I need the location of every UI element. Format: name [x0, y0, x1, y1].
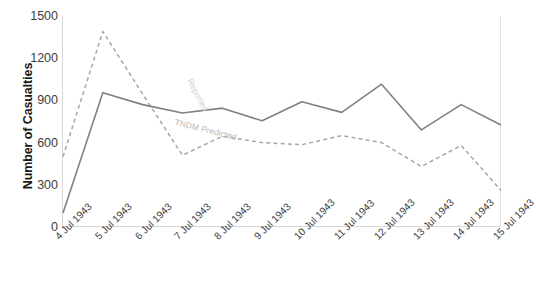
x-tick-label-6: 10 Jul 1943 [292, 197, 337, 242]
x-tick-label-0: 4 Jul 1943 [53, 201, 94, 242]
x-tick-label-1: 5 Jul 1943 [93, 201, 134, 242]
x-tick-label-8: 12 Jul 1943 [372, 197, 417, 242]
x-tick-label-7: 11 Jul 1943 [332, 197, 376, 241]
x-tick-label-2: 6 Jul 1943 [133, 201, 174, 242]
x-tick-label-9: 13 Jul 1943 [411, 197, 456, 242]
x-tick-label-4: 8 Jul 1943 [212, 201, 253, 242]
x-tick-label-10: 14 Jul 1943 [451, 197, 496, 242]
x-tick-label-11: 15 Jul 1943 [491, 197, 536, 242]
x-tick-label-3: 7 Jul 1943 [172, 201, 213, 242]
x-tick-label-5: 9 Jul 1943 [252, 201, 293, 242]
